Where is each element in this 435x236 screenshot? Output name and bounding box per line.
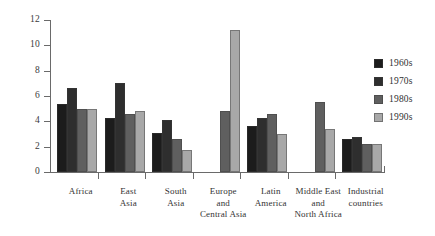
bar-group: [105, 20, 145, 172]
legend-item: 1990s: [374, 110, 413, 125]
bar-group: [295, 20, 335, 172]
legend-label: 1960s: [389, 59, 413, 69]
category-label-line: North Africa: [282, 209, 354, 221]
legend-item: 1960s: [374, 56, 413, 71]
bar: [162, 120, 172, 172]
y-tick-label-10: 10: [18, 40, 40, 50]
legend-swatch-icon: [374, 77, 383, 86]
bar-group: [152, 20, 192, 172]
y-tick-label-12: 12: [18, 15, 40, 25]
group-separator-tick: [193, 172, 194, 179]
bar-group: [247, 20, 287, 172]
y-tick-label-0: 0: [18, 167, 40, 177]
bar: [125, 114, 135, 172]
group-separator-tick: [145, 172, 146, 179]
bar: [57, 104, 67, 172]
bar: [230, 30, 240, 172]
bar-group: [57, 20, 97, 172]
group-separator-tick: [98, 172, 99, 179]
bar: [342, 139, 352, 172]
category-label-line: Central Asia: [187, 209, 259, 221]
bar: [372, 144, 382, 172]
group-separator-tick: [288, 172, 289, 179]
bar: [87, 109, 97, 172]
y-tick-label-6: 6: [18, 91, 40, 101]
y-tick-label-2: 2: [18, 142, 40, 152]
y-tick-label-4: 4: [18, 116, 40, 126]
bar: [325, 129, 335, 172]
bar: [362, 144, 372, 172]
plot-area: [50, 20, 385, 172]
bar: [247, 126, 257, 172]
legend-swatch-icon: [374, 113, 383, 122]
bar: [277, 134, 287, 172]
group-separator-tick: [240, 172, 241, 179]
legend-swatch-icon: [374, 59, 383, 68]
bar: [220, 111, 230, 172]
bar: [115, 83, 125, 172]
bar: [152, 133, 162, 172]
bar: [182, 150, 192, 172]
bar: [267, 114, 277, 172]
y-tick-0: [44, 172, 51, 173]
bar: [67, 88, 77, 172]
legend-label: 1990s: [389, 113, 413, 123]
bar: [352, 137, 362, 172]
grouped-bar-chart: 024681012 AfricaEastAsiaSouthAsiaEuropea…: [0, 0, 435, 236]
category-label-line: Industrial: [330, 186, 402, 198]
legend-swatch-icon: [374, 95, 383, 104]
bar: [172, 139, 182, 172]
legend-label: 1970s: [389, 77, 413, 87]
legend-item: 1980s: [374, 92, 413, 107]
category-label-line: countries: [330, 198, 402, 210]
legend-item: 1970s: [374, 74, 413, 89]
bar: [77, 109, 87, 172]
bar: [135, 111, 145, 172]
bar: [105, 118, 115, 172]
bar: [257, 118, 267, 172]
bar: [315, 102, 325, 172]
category-label: Industrialcountries: [330, 186, 402, 209]
y-tick-label-8: 8: [18, 66, 40, 76]
legend: 1960s1970s1980s1990s: [374, 56, 413, 128]
legend-label: 1980s: [389, 95, 413, 105]
group-separator-tick: [335, 172, 336, 179]
bar-group: [200, 20, 240, 172]
